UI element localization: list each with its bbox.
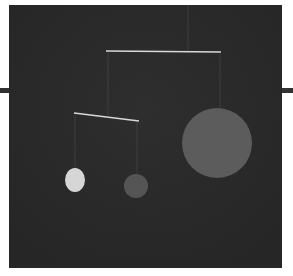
white-disc — [65, 168, 85, 192]
large-disc — [182, 108, 252, 178]
small-gray-disc — [124, 174, 148, 198]
right-rule — [282, 88, 293, 93]
left-rule — [0, 88, 10, 93]
mobile-scene — [0, 0, 293, 276]
